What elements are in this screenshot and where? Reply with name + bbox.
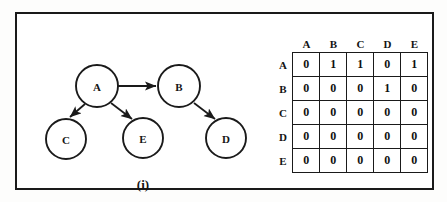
matrix-cell-E-B: 0	[319, 148, 347, 173]
matrix-row-header-E: E	[275, 149, 293, 173]
graph-node-A[interactable]: A	[76, 65, 118, 107]
adjacency-matrix-table: A B C D E A 0 1 1 0 1 B 0 0 0 1 0	[275, 34, 428, 173]
graph-node-C[interactable]: C	[46, 119, 86, 159]
graph-node-B-label: B	[175, 81, 183, 93]
graph-node-B[interactable]: B	[158, 65, 200, 107]
matrix-col-header-E: E	[401, 34, 428, 53]
matrix-cell-A-B: 1	[319, 52, 347, 77]
matrix-cell-C-A: 0	[292, 100, 320, 125]
matrix-row-header-A: A	[275, 53, 293, 77]
matrix-col-header-C: C	[347, 34, 374, 53]
matrix-row-header-C: C	[275, 101, 293, 125]
matrix-cell-C-E: 0	[400, 100, 428, 125]
graph-node-A-label: A	[93, 81, 101, 93]
matrix-corner-cell	[275, 34, 293, 53]
matrix-col-header-A: A	[293, 34, 320, 53]
matrix-cell-D-A: 0	[292, 124, 320, 149]
matrix-row-header-B: B	[275, 77, 293, 101]
graph-node-D-label: D	[222, 133, 230, 145]
graph-node-E[interactable]: E	[123, 118, 163, 158]
matrix-cell-A-A: 0	[292, 52, 320, 77]
matrix-cell-D-E: 0	[400, 124, 428, 149]
matrix-cell-D-C: 0	[346, 124, 374, 149]
edge-A-to-C	[70, 104, 85, 117]
graph-node-E-label: E	[139, 133, 146, 145]
matrix-cell-D-D: 0	[373, 124, 401, 149]
matrix-row-header-D: D	[275, 125, 293, 149]
matrix-col-header-D: D	[374, 34, 401, 53]
matrix-cell-C-C: 0	[346, 100, 374, 125]
matrix-cell-A-C: 1	[346, 52, 374, 77]
matrix-cell-B-B: 0	[319, 76, 347, 101]
directed-graph-svg: A B C E D	[17, 14, 272, 202]
matrix-cell-A-E: 1	[400, 52, 428, 77]
edge-B-to-D	[194, 103, 215, 119]
matrix-cell-B-E: 0	[400, 76, 428, 101]
matrix-col-header-B: B	[320, 34, 347, 53]
figure-root: A B C E D	[0, 0, 447, 202]
matrix-cell-A-D: 0	[373, 52, 401, 77]
figure-border: A B C E D	[15, 12, 434, 190]
matrix-cell-C-B: 0	[319, 100, 347, 125]
matrix-cell-B-D: 1	[373, 76, 401, 101]
matrix-cell-B-A: 0	[292, 76, 320, 101]
graph-node-C-label: C	[62, 134, 70, 146]
matrix-cell-E-E: 0	[400, 148, 428, 173]
matrix-cell-C-D: 0	[373, 100, 401, 125]
matrix-cell-B-C: 0	[346, 76, 374, 101]
edge-A-to-E	[111, 103, 132, 119]
matrix-cell-E-D: 0	[373, 148, 401, 173]
matrix-cell-E-A: 0	[292, 148, 320, 173]
matrix-cell-E-C: 0	[346, 148, 374, 173]
graph-panel: A B C E D	[17, 14, 272, 202]
matrix-cell-D-B: 0	[319, 124, 347, 149]
matrix-panel: A B C D E A 0 1 1 0 1 B 0 0 0 1 0	[275, 34, 428, 173]
graph-node-D[interactable]: D	[206, 118, 246, 158]
caption-graph: (i)	[112, 177, 174, 193]
